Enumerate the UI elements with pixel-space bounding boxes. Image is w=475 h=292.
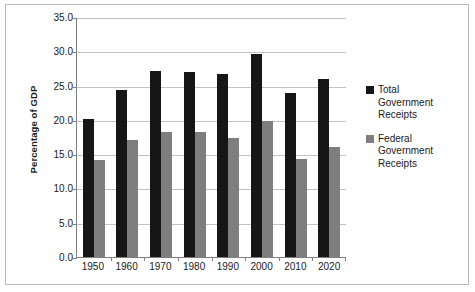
y-axis-tick-label: 30.0 [40,47,73,57]
bar-group [212,18,246,257]
x-axis-tick-mark [345,257,346,261]
bars-layer [77,18,346,257]
chart-legend: Total Government ReceiptsFederal Governm… [366,84,466,181]
x-axis-tick-mark [178,257,179,261]
y-axis-tick-label: 20.0 [40,116,73,126]
legend-entry[interactable]: Total Government Receipts [366,84,466,122]
y-axis-tick-label: 0.0 [40,253,73,263]
bar [161,132,172,257]
bar [228,138,239,257]
legend-swatch [366,135,374,143]
x-axis-tick-label: 1970 [144,262,178,272]
bar [184,72,195,257]
bar-group [279,18,313,257]
bar [83,119,94,258]
y-axis-title-label: Percentage of GDP [29,85,40,173]
x-axis-tick-label: 1950 [76,262,110,272]
y-axis-tick-label: 15.0 [40,150,73,160]
bar [116,90,127,257]
bar-group [144,18,178,257]
bar [329,147,340,257]
x-axis-tick-mark [279,257,280,261]
bar [217,74,228,257]
bar [285,93,296,257]
bar-group [111,18,145,257]
x-axis-tick-label: 2020 [312,262,346,272]
bar-group [245,18,279,257]
bar [150,71,161,258]
plot-area [76,18,346,258]
y-axis-tick-labels: 0.05.010.015.020.025.030.035.0 [40,16,73,260]
bar-group [77,18,111,257]
bar [262,121,273,257]
x-axis-tick-mark [144,257,145,261]
legend-swatch [366,86,374,94]
y-axis-tick-label: 25.0 [40,82,73,92]
x-axis-tick-labels: 19501960197019801990200020102020 [76,262,346,272]
bar [127,140,138,257]
x-axis-tick-label: 1990 [211,262,245,272]
bar [251,54,262,257]
y-axis-tick-label: 35.0 [40,13,73,23]
bar [296,159,307,257]
bar [94,160,105,257]
legend-entry[interactable]: Federal Government Receipts [366,133,466,171]
chart-figure: Percentage of GDP 0.05.010.015.020.025.0… [0,0,475,292]
bar [318,79,329,257]
x-axis-tick-label: 1980 [177,262,211,272]
x-axis-tick-mark [245,257,246,261]
y-axis-tick-label: 10.0 [40,184,73,194]
y-axis-tick-label: 5.0 [40,219,73,229]
x-axis-tick-mark [212,257,213,261]
x-axis-tick-label: 1960 [110,262,144,272]
x-axis-tick-label: 2000 [245,262,279,272]
bar-group [312,18,346,257]
y-axis-tick-mark [73,258,77,259]
legend-label: Total Government Receipts [378,84,433,122]
bar [195,132,206,257]
x-axis-tick-mark [111,257,112,261]
x-axis-tick-label: 2010 [279,262,313,272]
x-axis-tick-mark [312,257,313,261]
legend-label: Federal Government Receipts [378,133,433,171]
bar-group [178,18,212,257]
